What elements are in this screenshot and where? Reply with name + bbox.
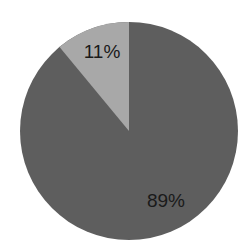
pie-chart: 89% 11% — [0, 0, 248, 252]
pie-label-11: 11% — [84, 41, 121, 62]
pie-label-89: 89% — [147, 190, 185, 211]
